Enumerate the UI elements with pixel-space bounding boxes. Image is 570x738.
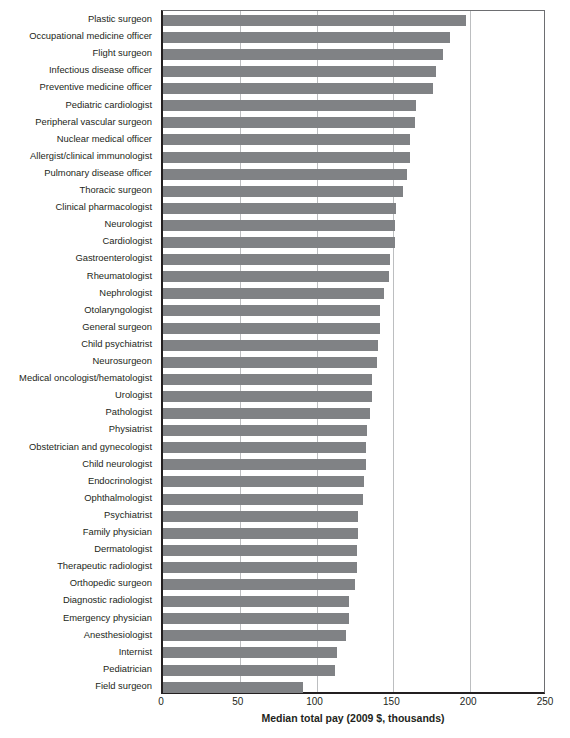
bar — [163, 511, 358, 522]
bar — [163, 152, 410, 163]
bar-row — [163, 404, 544, 422]
bar-row — [163, 28, 544, 46]
category-label: Therapeutic radiologist — [0, 557, 157, 575]
bar — [163, 100, 416, 111]
bar-row — [163, 524, 544, 542]
bar-row — [163, 114, 544, 132]
bar — [163, 442, 366, 453]
y-axis-category-labels: Plastic surgeonOccupational medicine off… — [0, 10, 157, 694]
x-tick-label: 250 — [537, 696, 554, 707]
bar — [163, 32, 450, 43]
bar — [163, 203, 396, 214]
bar — [163, 613, 349, 624]
bar-row — [163, 644, 544, 662]
bar-row — [163, 131, 544, 149]
category-label: Pediatric cardiologist — [0, 96, 157, 114]
category-label: Orthopedic surgeon — [0, 574, 157, 592]
bar-row — [163, 285, 544, 303]
bar — [163, 254, 390, 265]
category-label: Plastic surgeon — [0, 10, 157, 28]
bar-row — [163, 216, 544, 234]
category-label: Anesthesiologist — [0, 626, 157, 644]
category-label: Flight surgeon — [0, 44, 157, 62]
bar — [163, 579, 355, 590]
category-label: Physiatrist — [0, 420, 157, 438]
category-label: Neurosurgeon — [0, 352, 157, 370]
bar-rows — [163, 11, 544, 692]
bar — [163, 545, 357, 556]
bar — [163, 647, 337, 658]
bar-row — [163, 62, 544, 80]
category-label: Neurologist — [0, 215, 157, 233]
category-label: Child psychiatrist — [0, 335, 157, 353]
bar-row — [163, 268, 544, 286]
bar — [163, 528, 358, 539]
bar — [163, 305, 380, 316]
bar-row — [163, 558, 544, 576]
x-tick-label: 200 — [460, 696, 477, 707]
bar-row — [163, 11, 544, 29]
category-label: Endocrinologist — [0, 472, 157, 490]
plot-area — [161, 10, 545, 694]
category-label: Otolaryngologist — [0, 301, 157, 319]
bar — [163, 323, 380, 334]
bar-row — [163, 610, 544, 628]
category-label: Preventive medicine officer — [0, 78, 157, 96]
bar — [163, 630, 346, 641]
bar-row — [163, 79, 544, 97]
bar — [163, 494, 363, 505]
x-tick-label: 0 — [158, 696, 164, 707]
category-label: Nuclear medical officer — [0, 130, 157, 148]
x-tick-label: 100 — [306, 696, 323, 707]
bar-row — [163, 302, 544, 320]
bar — [163, 391, 372, 402]
bar — [163, 288, 384, 299]
bar — [163, 271, 389, 282]
bar — [163, 357, 377, 368]
category-label: Pulmonary disease officer — [0, 164, 157, 182]
category-label: Thoracic surgeon — [0, 181, 157, 199]
bar-chart: Plastic surgeonOccupational medicine off… — [0, 0, 570, 738]
bar-row — [163, 165, 544, 183]
category-label: Infectious disease officer — [0, 61, 157, 79]
bar — [163, 117, 415, 128]
bar — [163, 186, 403, 197]
category-label: Ophthalmologist — [0, 489, 157, 507]
bar — [163, 220, 395, 231]
bar-row — [163, 575, 544, 593]
x-tick-label: 50 — [232, 696, 243, 707]
category-label: Pediatrician — [0, 660, 157, 678]
bar-row — [163, 592, 544, 610]
bar-row — [163, 370, 544, 388]
bar-row — [163, 661, 544, 679]
bar-row — [163, 353, 544, 371]
bar-row — [163, 507, 544, 525]
bar-row — [163, 45, 544, 63]
bar — [163, 476, 364, 487]
bar-row — [163, 319, 544, 337]
bar — [163, 134, 410, 145]
category-label: Clinical pharmacologist — [0, 198, 157, 216]
category-label: Gastroenterologist — [0, 249, 157, 267]
category-label: Family physician — [0, 523, 157, 541]
category-label: Cardiologist — [0, 232, 157, 250]
bar — [163, 15, 466, 26]
bar-row — [163, 421, 544, 439]
category-label: Allergist/clinical immunologist — [0, 147, 157, 165]
bar-row — [163, 250, 544, 268]
category-label: Internist — [0, 643, 157, 661]
bar — [163, 374, 372, 385]
bar — [163, 425, 367, 436]
bar — [163, 596, 349, 607]
category-label: Dermatologist — [0, 540, 157, 558]
bar-row — [163, 182, 544, 200]
bar-row — [163, 490, 544, 508]
category-label: Diagnostic radiologist — [0, 591, 157, 609]
category-label: Rheumatologist — [0, 267, 157, 285]
bar-row — [163, 233, 544, 251]
bar-row — [163, 336, 544, 354]
bar-row — [163, 473, 544, 491]
category-label: Pathologist — [0, 403, 157, 421]
category-label: Nephrologist — [0, 284, 157, 302]
bar — [163, 340, 378, 351]
